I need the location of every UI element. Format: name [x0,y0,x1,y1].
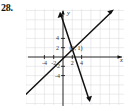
figure-container: 28. [0,0,128,111]
y-tick-label-neg4: -4 [55,73,60,79]
problem-number: 28. [1,2,13,13]
x-tick-label-4: 4 [80,60,83,66]
coordinate-graph: -4 -2 2 4 4 2 -2 -4 x y (1, 1) [26,5,126,109]
x-tick-label-neg4: -4 [42,60,47,66]
x-tick-label-2: 2 [71,60,74,66]
x-axis-label: x [119,56,123,63]
y-tick-label-neg2: -2 [55,63,60,69]
y-tick-label-2: 2 [56,45,59,51]
graph-svg: -4 -2 2 4 4 2 -2 -4 x y (1, 1) [26,5,126,109]
y-axis-label: y [66,9,70,16]
y-tick-label-4: 4 [56,35,59,41]
intersection-point-label: (1, 1) [70,45,83,52]
